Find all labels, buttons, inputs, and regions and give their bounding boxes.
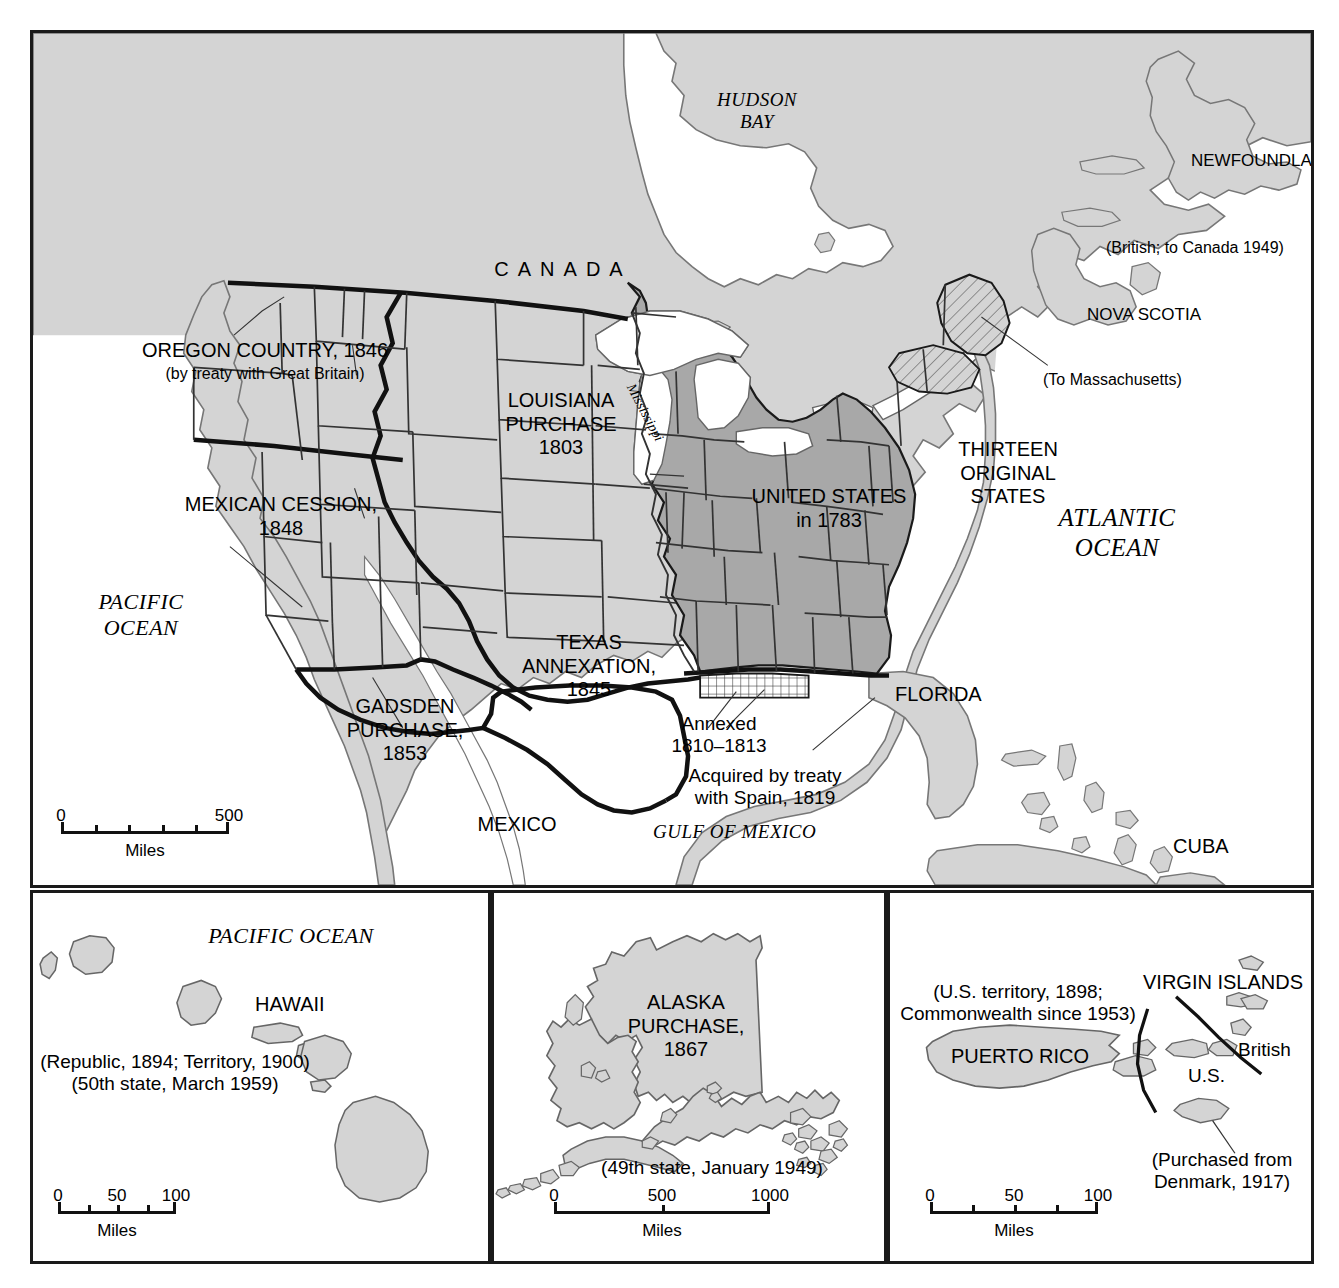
scale-bar-tick (662, 1205, 665, 1214)
scale-bar-tick (95, 825, 98, 834)
scale-bar-tick (195, 825, 198, 834)
label-nova-scotia: NOVA SCOTIA (1087, 305, 1201, 325)
scale-bar-label: 0 (925, 1186, 934, 1206)
alaska-inset-panel: ALASKAPURCHASE,1867 (49th state, January… (491, 890, 887, 1264)
label-denmark-note: (Purchased fromDenmark, 1917) (1152, 1149, 1292, 1194)
label-alaska-purchase: ALASKAPURCHASE,1867 (628, 991, 745, 1062)
label-hudson-bay: HUDSONBAY (717, 89, 797, 134)
label-british: British (1238, 1039, 1291, 1061)
label-newfoundland: NEWFOUNDLAND (1191, 151, 1314, 171)
label-oregon-country: OREGON COUNTRY, 1846 (142, 339, 388, 363)
label-hawaii-note-1: (Republic, 1894; Territory, 1900) (40, 1051, 310, 1073)
label-gulf-of-mexico: GULF OF MEXICO (653, 821, 816, 843)
label-florida: FLORIDA (895, 683, 982, 707)
label-mexican-cession: MEXICAN CESSION,1848 (185, 493, 377, 540)
main-map-panel: HUDSONBAY CANADA NEWFOUNDLAND (British; … (30, 30, 1314, 888)
scale-bar-label: 50 (108, 1186, 127, 1206)
hawaii-inset-panel: PACIFIC OCEAN HAWAII (Republic, 1894; Te… (30, 890, 491, 1264)
scale-bar-units: Miles (554, 1221, 770, 1241)
scale-bar-units: Miles (930, 1221, 1098, 1241)
scale-bar-label: 50 (1005, 1186, 1024, 1206)
label-gadsden-purchase: GADSDENPURCHASE,1853 (347, 695, 464, 766)
label-puerto-rico-name: PUERTO RICO (951, 1045, 1089, 1069)
label-mexico: MEXICO (478, 813, 557, 837)
niihau-island (40, 952, 57, 978)
cape-breton-island (1130, 263, 1160, 295)
lake-erie-overlay (736, 428, 812, 456)
scale-bar-label: 100 (162, 1186, 190, 1206)
label-atlantic-ocean: ATLANTICOCEAN (1058, 503, 1175, 562)
texas-north-east-boundary (501, 686, 688, 801)
puerto-rico-inset-panel: (U.S. territory, 1898;Commonwealth since… (887, 890, 1314, 1264)
label-pacific-ocean: PACIFICOCEAN (99, 589, 184, 641)
scale-bar-tick (128, 825, 131, 834)
label-united-states-1783: UNITED STATESin 1783 (752, 485, 907, 532)
scale-bar-label: 500 (648, 1186, 676, 1206)
annexed-1810-1813-area (700, 674, 809, 698)
scale-bar-label: 1000 (751, 1186, 789, 1206)
scale-bar-tick (117, 1205, 120, 1214)
hawaii-big-island (335, 1096, 428, 1202)
label-hawaii-pacific-ocean: PACIFIC OCEAN (208, 923, 374, 949)
scale-bar-tick (162, 825, 165, 834)
kahoolawe-island (311, 1080, 331, 1092)
scale-bar-units: Miles (58, 1221, 176, 1241)
label-hawaii-note-2: (50th state, March 1959) (72, 1073, 279, 1095)
label-acquired-spain: Acquired by treatywith Spain, 1819 (688, 765, 841, 810)
kauai-island (69, 936, 114, 975)
scale-bar-label: 100 (1084, 1186, 1112, 1206)
scale-bar-line (61, 831, 229, 834)
scale-bar-label: 0 (53, 1186, 62, 1206)
label-annexed-1810-1813: Annexed1810–1813 (671, 713, 766, 758)
label-cuba: CUBA (1173, 835, 1229, 859)
puerto-rico-offshore-islands (1113, 1039, 1156, 1076)
label-to-massachusetts: (To Massachusetts) (1043, 371, 1182, 390)
aleutian-islands (496, 1161, 579, 1198)
label-louisiana-purchase: LOUISIANAPURCHASE1803 (505, 389, 616, 460)
scale-bar-label: 0 (549, 1186, 558, 1206)
map-page: HUDSONBAY CANADA NEWFOUNDLAND (British; … (0, 0, 1339, 1288)
label-virgin-islands: VIRGIN ISLANDS (1143, 971, 1303, 995)
label-oregon-note: (by treaty with Great Britain) (165, 365, 364, 384)
scale-bar-label: 500 (215, 806, 243, 826)
label-canada: CANADA (494, 258, 631, 282)
molokai-island (252, 1023, 303, 1043)
oahu-island (177, 980, 222, 1025)
label-thirteen-original-states: THIRTEENORIGINALSTATES (958, 438, 1058, 509)
scale-bar-tick (972, 1205, 975, 1214)
texas-rio-grande-boundary (483, 728, 666, 813)
label-newfoundland-note: (British; to Canada 1949) (1106, 239, 1284, 258)
label-hawaii-name: HAWAII (255, 993, 325, 1017)
scale-bar-tick (1014, 1205, 1017, 1214)
scale-bar-units: Miles (61, 841, 229, 861)
scale-bar-tick (147, 1205, 150, 1214)
spain-leader (813, 698, 875, 750)
label-pr-note: (U.S. territory, 1898;Commonwealth since… (900, 981, 1136, 1026)
label-texas-annexation: TEXASANNEXATION,1845 (522, 631, 656, 702)
scale-bar-label: 0 (56, 806, 65, 826)
label-alaska-note: (49th state, January 1949) (601, 1157, 823, 1179)
label-us: U.S. (1188, 1065, 1225, 1087)
scale-bar-tick (88, 1205, 91, 1214)
scale-bar-tick (1056, 1205, 1059, 1214)
